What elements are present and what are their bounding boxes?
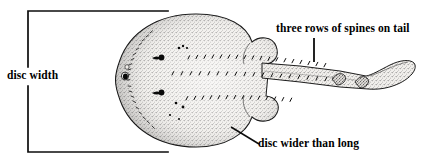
spiracle — [125, 65, 129, 70]
label-disc-width: disc width — [7, 69, 58, 81]
eye — [121, 72, 128, 80]
ray-identification-figure: disc width three rows of spines on tail … — [0, 0, 422, 162]
ray-disc — [116, 14, 279, 147]
label-three-rows-of-spines-on-tail: three rows of spines on tail — [276, 22, 410, 34]
label-disc-wider-than-long: disc wider than long — [258, 137, 359, 149]
